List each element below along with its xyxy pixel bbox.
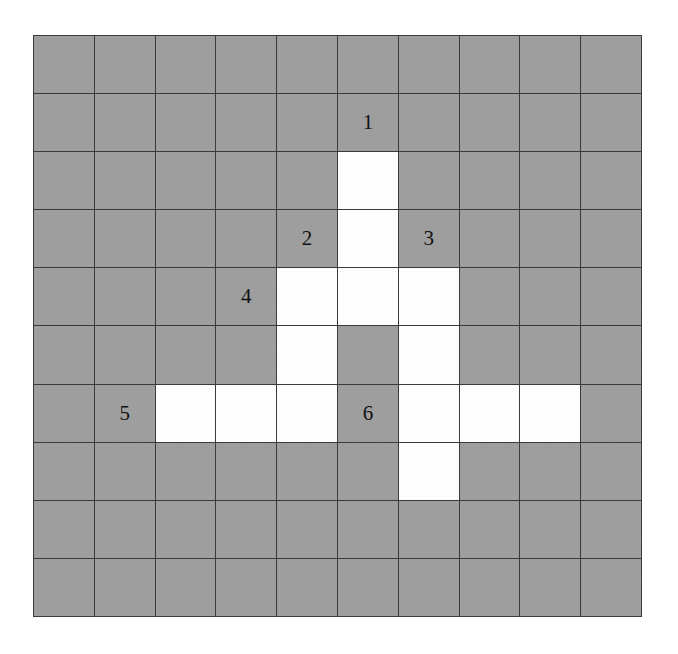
grid-cell-r8-c3[interactable]	[216, 500, 277, 558]
grid-cell-r0-c5[interactable]	[337, 36, 398, 94]
grid-cell-r1-c2[interactable]	[155, 94, 216, 152]
grid-cell-r1-c8[interactable]	[520, 94, 581, 152]
grid-cell-r4-c7[interactable]	[459, 268, 520, 326]
grid-cell-r0-c3[interactable]	[216, 36, 277, 94]
grid-cell-r2-c9[interactable]	[581, 152, 642, 210]
grid-cell-r8-c5[interactable]	[337, 500, 398, 558]
grid-cell-r6-c8[interactable]	[520, 384, 581, 442]
grid-cell-r0-c6[interactable]	[398, 36, 459, 94]
grid-cell-r2-c2[interactable]	[155, 152, 216, 210]
grid-cell-r9-c8[interactable]	[520, 558, 581, 616]
grid-cell-r4-c5[interactable]	[337, 268, 398, 326]
grid-cell-r3-c4[interactable]: 2	[277, 210, 338, 268]
grid-cell-r5-c8[interactable]	[520, 326, 581, 384]
grid-cell-r6-c7[interactable]	[459, 384, 520, 442]
grid-cell-r6-c1[interactable]: 5	[94, 384, 155, 442]
grid-cell-r8-c7[interactable]	[459, 500, 520, 558]
grid-cell-r5-c9[interactable]	[581, 326, 642, 384]
grid-cell-r4-c1[interactable]	[94, 268, 155, 326]
grid-cell-r0-c1[interactable]	[94, 36, 155, 94]
grid-cell-r3-c8[interactable]	[520, 210, 581, 268]
grid-cell-r7-c5[interactable]	[337, 442, 398, 500]
grid-cell-r7-c8[interactable]	[520, 442, 581, 500]
grid-cell-r8-c1[interactable]	[94, 500, 155, 558]
grid-cell-r3-c2[interactable]	[155, 210, 216, 268]
grid-cell-r5-c6[interactable]	[398, 326, 459, 384]
grid-cell-r2-c5[interactable]	[337, 152, 398, 210]
grid-cell-r1-c5[interactable]: 1	[337, 94, 398, 152]
grid-cell-r9-c3[interactable]	[216, 558, 277, 616]
grid-cell-r0-c8[interactable]	[520, 36, 581, 94]
grid-cell-r2-c1[interactable]	[94, 152, 155, 210]
grid-cell-r9-c0[interactable]	[34, 558, 95, 616]
grid-cell-r1-c7[interactable]	[459, 94, 520, 152]
grid-cell-r3-c1[interactable]	[94, 210, 155, 268]
grid-cell-r6-c5[interactable]: 6	[337, 384, 398, 442]
grid-cell-r5-c2[interactable]	[155, 326, 216, 384]
grid-cell-r3-c0[interactable]	[34, 210, 95, 268]
grid-cell-r7-c3[interactable]	[216, 442, 277, 500]
grid-cell-r8-c8[interactable]	[520, 500, 581, 558]
grid-cell-r4-c3[interactable]: 4	[216, 268, 277, 326]
grid-cell-r5-c5[interactable]	[337, 326, 398, 384]
grid-cell-r2-c7[interactable]	[459, 152, 520, 210]
grid-cell-r4-c8[interactable]	[520, 268, 581, 326]
grid-cell-r7-c2[interactable]	[155, 442, 216, 500]
grid-cell-r9-c2[interactable]	[155, 558, 216, 616]
grid-cell-r9-c6[interactable]	[398, 558, 459, 616]
grid-cell-r4-c2[interactable]	[155, 268, 216, 326]
grid-cell-r3-c9[interactable]	[581, 210, 642, 268]
grid-cell-r6-c4[interactable]	[277, 384, 338, 442]
grid-cell-r1-c0[interactable]	[34, 94, 95, 152]
grid-cell-r3-c7[interactable]	[459, 210, 520, 268]
grid-cell-r5-c1[interactable]	[94, 326, 155, 384]
grid-cell-r2-c4[interactable]	[277, 152, 338, 210]
grid-cell-r6-c0[interactable]	[34, 384, 95, 442]
grid-cell-r0-c4[interactable]	[277, 36, 338, 94]
grid-cell-r2-c3[interactable]	[216, 152, 277, 210]
grid-cell-r7-c7[interactable]	[459, 442, 520, 500]
grid-cell-r8-c6[interactable]	[398, 500, 459, 558]
grid-cell-r7-c9[interactable]	[581, 442, 642, 500]
grid-cell-r3-c3[interactable]	[216, 210, 277, 268]
grid-cell-r3-c5[interactable]	[337, 210, 398, 268]
grid-cell-r2-c0[interactable]	[34, 152, 95, 210]
grid-cell-r0-c2[interactable]	[155, 36, 216, 94]
grid-cell-r0-c0[interactable]	[34, 36, 95, 94]
grid-cell-r6-c6[interactable]	[398, 384, 459, 442]
grid-cell-r1-c9[interactable]	[581, 94, 642, 152]
grid-cell-r8-c0[interactable]	[34, 500, 95, 558]
grid-cell-r3-c6[interactable]: 3	[398, 210, 459, 268]
grid-cell-r6-c2[interactable]	[155, 384, 216, 442]
grid-cell-r4-c4[interactable]	[277, 268, 338, 326]
grid-cell-r8-c2[interactable]	[155, 500, 216, 558]
grid-cell-r1-c3[interactable]	[216, 94, 277, 152]
grid-cell-r7-c0[interactable]	[34, 442, 95, 500]
grid-cell-r6-c9[interactable]	[581, 384, 642, 442]
grid-cell-r5-c0[interactable]	[34, 326, 95, 384]
grid-cell-r9-c9[interactable]	[581, 558, 642, 616]
grid-cell-r1-c1[interactable]	[94, 94, 155, 152]
grid-cell-r0-c9[interactable]	[581, 36, 642, 94]
grid-cell-r5-c3[interactable]	[216, 326, 277, 384]
grid-cell-r2-c6[interactable]	[398, 152, 459, 210]
grid-cell-r4-c0[interactable]	[34, 268, 95, 326]
grid-cell-r4-c6[interactable]	[398, 268, 459, 326]
grid-cell-r7-c4[interactable]	[277, 442, 338, 500]
grid-cell-r0-c7[interactable]	[459, 36, 520, 94]
grid-cell-r7-c6[interactable]	[398, 442, 459, 500]
grid-cell-r8-c9[interactable]	[581, 500, 642, 558]
grid-cell-r2-c8[interactable]	[520, 152, 581, 210]
grid-cell-r9-c5[interactable]	[337, 558, 398, 616]
grid-cell-r9-c4[interactable]	[277, 558, 338, 616]
grid-cell-r6-c3[interactable]	[216, 384, 277, 442]
grid-cell-r5-c4[interactable]	[277, 326, 338, 384]
grid-cell-r9-c7[interactable]	[459, 558, 520, 616]
grid-cell-r7-c1[interactable]	[94, 442, 155, 500]
grid-cell-r9-c1[interactable]	[94, 558, 155, 616]
grid-cell-r5-c7[interactable]	[459, 326, 520, 384]
grid-cell-r4-c9[interactable]	[581, 268, 642, 326]
grid-cell-r1-c6[interactable]	[398, 94, 459, 152]
grid-cell-r8-c4[interactable]	[277, 500, 338, 558]
grid-cell-r1-c4[interactable]	[277, 94, 338, 152]
